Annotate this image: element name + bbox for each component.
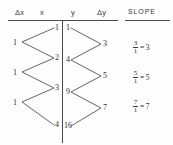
slope-entry: 7 1 = 7 bbox=[133, 99, 149, 115]
slope-numerator: 5 bbox=[133, 70, 138, 77]
header-slope: SLOPE bbox=[128, 8, 156, 15]
slope-fraction: 7 1 bbox=[133, 99, 138, 115]
center-divider bbox=[62, 21, 63, 143]
y-value: 9 bbox=[66, 87, 70, 96]
slope-entry: 5 1 = 5 bbox=[133, 70, 149, 86]
slope-numerator: 3 bbox=[133, 40, 138, 47]
slope-result: 3 bbox=[146, 43, 150, 52]
delta-y-value: 7 bbox=[103, 103, 107, 112]
slope-numerator: 7 bbox=[133, 99, 138, 106]
header-rule-main bbox=[8, 20, 118, 21]
slope-denominator: 1 bbox=[133, 107, 138, 114]
header-y: y bbox=[71, 8, 75, 17]
slope-entry: 3 1 = 3 bbox=[133, 40, 149, 56]
difference-table-figure: Δx x y Δy SLOPE 1 1 1 1 2 3 4 1 4 9 16 3… bbox=[0, 0, 173, 145]
delta-y-value: 3 bbox=[103, 39, 107, 48]
zigzag-right bbox=[71, 28, 101, 126]
slope-denominator: 1 bbox=[133, 48, 138, 55]
x-value: 2 bbox=[55, 53, 59, 62]
x-value: 4 bbox=[55, 120, 59, 129]
delta-y-value: 5 bbox=[103, 71, 107, 80]
header-rule-slope bbox=[125, 20, 170, 21]
slope-fraction: 3 1 bbox=[133, 40, 138, 56]
delta-x-value: 1 bbox=[13, 98, 17, 107]
equals-sign: = bbox=[140, 43, 144, 52]
y-value: 1 bbox=[66, 23, 70, 32]
slope-fraction: 5 1 bbox=[133, 70, 138, 86]
slope-result: 5 bbox=[146, 73, 150, 82]
y-value: 16 bbox=[64, 121, 72, 130]
delta-x-value: 1 bbox=[13, 68, 17, 77]
header-delta-x: Δx bbox=[15, 8, 24, 17]
x-value: 3 bbox=[55, 83, 59, 92]
y-value: 4 bbox=[66, 55, 70, 64]
equals-sign: = bbox=[140, 102, 144, 111]
x-value: 1 bbox=[55, 23, 59, 32]
header-x: x bbox=[40, 8, 44, 17]
equals-sign: = bbox=[140, 73, 144, 82]
slope-denominator: 1 bbox=[133, 78, 138, 85]
delta-x-value: 1 bbox=[13, 38, 17, 47]
slope-result: 7 bbox=[146, 102, 150, 111]
zigzag-left bbox=[22, 28, 54, 125]
header-delta-y: Δy bbox=[97, 8, 106, 17]
